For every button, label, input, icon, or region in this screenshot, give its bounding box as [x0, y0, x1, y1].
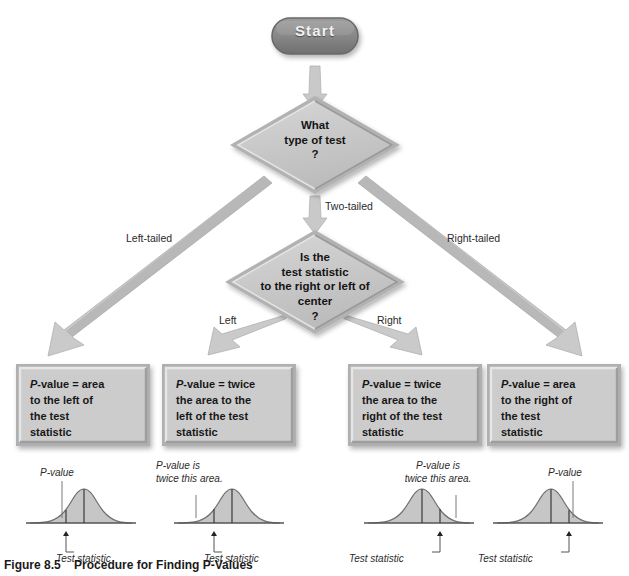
result-1-line-2: to the left of: [30, 392, 142, 408]
figure-caption-number: Figure 8.5: [4, 558, 61, 572]
result-1-line-4: statistic: [30, 424, 142, 440]
node-start[interactable]: [272, 18, 358, 54]
normal-curve-4: [493, 481, 603, 552]
node-decision-what-type-of-test[interactable]: [230, 96, 400, 194]
normal-curve-1: [26, 481, 136, 552]
figure-caption-text: Procedure for Finding P-Values: [74, 558, 253, 572]
edge-label-two-tailed: Two-tailed: [325, 200, 373, 212]
result-4-line-2: to the right of: [501, 392, 613, 408]
result-3-line-2: the area to the: [362, 392, 474, 408]
result-3-line-4: statistic: [362, 424, 474, 440]
curve-3-statistic-note: Test statistic: [349, 552, 404, 565]
curve-1-pvalue-note: P-value: [40, 466, 74, 479]
result-box-2-text: P-value = twice the area to the left of …: [176, 376, 288, 440]
curve-3-pvalue-line-2: twice this area.: [378, 472, 498, 485]
result-3-line-1: -value = twice: [369, 378, 441, 390]
result-4-line-1: -value = area: [508, 378, 575, 390]
result-2-line-1: -value = twice: [183, 378, 255, 390]
curve-2-pvalue-line-1: P-value is: [156, 459, 223, 472]
curve-2-pvalue-line-2: twice this area.: [156, 472, 223, 485]
curve-2-pvalue-note: P-value is twice this area.: [156, 459, 223, 485]
flowchart-canvas: [0, 0, 629, 576]
normal-curve-2: [174, 489, 284, 552]
normal-curve-3: [364, 489, 474, 552]
curve-3-pvalue-note: P-value is twice this area.: [378, 459, 498, 485]
result-2-line-4: statistic: [176, 424, 288, 440]
figure-root: Start What type of test ? Is the test st…: [0, 0, 629, 576]
edge-label-right: Right: [377, 314, 402, 326]
curve-3-pvalue-line-1: P-value is: [378, 459, 498, 472]
result-1-line-1: -value = area: [37, 378, 104, 390]
edge-label-left: Left: [219, 314, 237, 326]
edge-label-left-tailed: Left-tailed: [126, 232, 172, 244]
curve-4-pvalue-note: P-value: [548, 466, 582, 479]
arrow-two-tailed: [303, 196, 327, 234]
result-2-line-3: left of the test: [176, 408, 288, 424]
result-4-line-4: statistic: [501, 424, 613, 440]
result-1-line-3: the test: [30, 408, 142, 424]
result-box-1-text: P-value = area to the left of the test s…: [30, 376, 142, 440]
result-2-line-2: the area to the: [176, 392, 288, 408]
result-3-line-3: right of the test: [362, 408, 474, 424]
curve-4-statistic-note: Test statistic: [478, 552, 533, 565]
result-box-4-text: P-value = area to the right of the test …: [501, 376, 613, 440]
edge-label-right-tailed: Right-tailed: [447, 232, 500, 244]
result-box-3-text: P-value = twice the area to the right of…: [362, 376, 474, 440]
result-4-line-3: the test: [501, 408, 613, 424]
figure-caption: Figure 8.5 Procedure for Finding P-Value…: [4, 558, 253, 572]
